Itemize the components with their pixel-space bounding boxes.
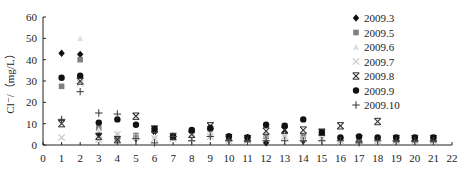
- data-point-star-icon: [374, 118, 380, 124]
- data-point-plus-icon: [114, 110, 121, 117]
- legend-circle-icon: [353, 87, 359, 93]
- data-point-triangle-icon: [77, 35, 83, 41]
- data-point-circle-icon: [58, 75, 64, 81]
- data-point-circle-icon: [151, 126, 157, 132]
- legend-label: 2009.5: [364, 27, 395, 39]
- y-tick-label: 40: [26, 54, 38, 66]
- legend-square-icon: [353, 30, 359, 36]
- x-tick-label: 7: [170, 152, 176, 164]
- scatter-plot: 0102030405060012345678910111213141516171…: [0, 0, 468, 171]
- legend-label: 2009.7: [364, 56, 395, 68]
- data-point-circle-icon: [207, 125, 213, 131]
- y-tick-label: 30: [26, 75, 38, 87]
- x-tick-label: 13: [279, 152, 291, 164]
- data-point-circle-icon: [189, 127, 195, 133]
- x-tick-label: 12: [261, 152, 272, 164]
- data-point-circle-icon: [96, 119, 102, 125]
- legend-star-icon: [353, 73, 359, 79]
- x-tick-label: 17: [354, 152, 366, 164]
- data-point-circle-icon: [300, 116, 306, 122]
- data-point-plus-icon: [188, 137, 195, 144]
- legend-label: 2009.3: [364, 12, 395, 24]
- data-point-circle-icon: [263, 122, 269, 128]
- legend-plus-icon: [352, 101, 359, 108]
- chart: 0102030405060012345678910111213141516171…: [0, 0, 468, 171]
- legend-label: 2009.9: [364, 85, 395, 97]
- x-tick-label: 2: [77, 152, 83, 164]
- data-point-x-icon: [58, 134, 64, 140]
- x-tick-label: 4: [115, 152, 121, 164]
- x-tick-label: 9: [208, 152, 214, 164]
- data-point-star-icon: [300, 127, 306, 133]
- legend-label: 2009.6: [364, 41, 395, 53]
- x-tick-label: 21: [428, 152, 439, 164]
- data-point-star-icon: [337, 123, 343, 129]
- x-tick-label: 19: [391, 152, 403, 164]
- data-point-star-icon: [133, 113, 139, 119]
- x-tick-label: 5: [133, 152, 139, 164]
- x-tick-label: 8: [189, 152, 195, 164]
- x-tick-label: 22: [447, 152, 458, 164]
- legend-label: 2009.10: [364, 99, 400, 111]
- x-tick-label: 18: [372, 152, 384, 164]
- legend-diamond-icon: [353, 14, 359, 21]
- data-point-circle-icon: [319, 129, 325, 135]
- y-tick-label: 60: [26, 11, 38, 23]
- data-point-diamond-icon: [58, 50, 64, 57]
- y-tick-label: 10: [26, 118, 38, 130]
- legend-triangle-icon: [353, 44, 359, 50]
- data-point-circle-icon: [356, 133, 362, 139]
- x-tick-label: 10: [223, 152, 235, 164]
- x-tick-label: 1: [59, 152, 65, 164]
- data-point-circle-icon: [133, 122, 139, 128]
- x-tick-label: 6: [152, 152, 158, 164]
- x-tick-label: 14: [298, 152, 310, 164]
- x-tick-label: 0: [40, 152, 46, 164]
- data-point-plus-icon: [95, 109, 102, 116]
- legend-x-icon: [353, 58, 359, 64]
- x-tick-label: 16: [335, 152, 347, 164]
- x-tick-label: 3: [96, 152, 102, 164]
- data-point-circle-icon: [281, 123, 287, 129]
- data-point-square-icon: [59, 84, 65, 90]
- y-tick-label: 0: [32, 139, 38, 151]
- data-point-circle-icon: [77, 72, 83, 78]
- legend-label: 2009.8: [364, 70, 395, 82]
- data-point-square-icon: [77, 57, 83, 63]
- y-tick-label: 20: [26, 96, 38, 108]
- x-tick-label: 11: [242, 152, 253, 164]
- data-point-plus-icon: [281, 137, 288, 144]
- x-tick-label: 20: [409, 152, 421, 164]
- x-tick-label: 15: [316, 152, 328, 164]
- y-tick-label: 50: [26, 32, 38, 44]
- data-point-plus-icon: [76, 88, 83, 95]
- y-axis-label: Cl⁻/（mg/L）: [4, 48, 16, 113]
